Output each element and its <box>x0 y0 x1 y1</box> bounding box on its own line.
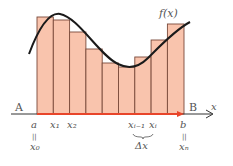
lower-bound-equals: || <box>32 133 37 141</box>
point-a-label: A <box>14 101 24 114</box>
lower-bound-label: a <box>31 119 37 130</box>
lower-bound-index: x₀ <box>30 141 40 152</box>
upper-bound-index: xₙ <box>179 141 189 152</box>
delta-brace <box>133 134 153 139</box>
bar-4 <box>86 49 102 114</box>
riemann-sum-diagram: f(x) x A B a || x₀ x₁ x₂ xᵢ₋₁ xᵢ Δx b ||… <box>0 0 233 166</box>
upper-bound-equals: || <box>182 133 187 141</box>
bar-2 <box>53 20 69 114</box>
bar-6 <box>119 67 135 114</box>
tick-label-x1: x₁ <box>50 119 60 130</box>
delta-label: Δx <box>134 140 148 151</box>
axis-label: x <box>211 101 217 112</box>
tick-label-x2: x₂ <box>67 119 77 130</box>
bar-3 <box>70 32 86 114</box>
bar-5 <box>102 63 118 114</box>
riemann-bars <box>37 17 184 114</box>
upper-bound-label: b <box>180 119 186 130</box>
point-b-label: B <box>189 101 197 114</box>
curve-label: f(x) <box>158 7 178 20</box>
tick-label-xi: xᵢ <box>149 119 157 130</box>
tick-label-xi-1: xᵢ₋₁ <box>128 119 145 130</box>
